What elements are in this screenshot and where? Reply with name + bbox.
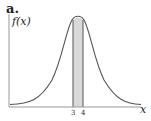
x-tick-4: 4 [81,109,85,117]
x-tick-3: 3 [71,109,75,117]
shaded-interval [73,18,83,108]
x-axis-label: x [140,103,146,116]
chart-plot [0,0,151,121]
